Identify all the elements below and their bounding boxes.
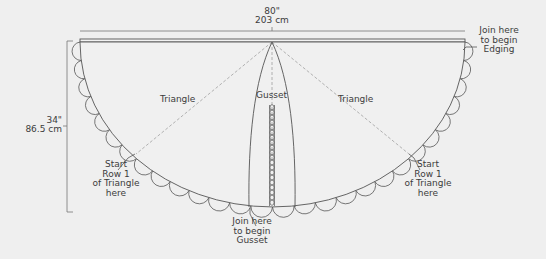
callout-start-row1-right: Start Row 1 of Triangle here (400, 160, 456, 198)
gusset-label: Gusset (256, 91, 287, 101)
callout-join-gusset: Join here to begin Gusset (226, 217, 278, 246)
triangle-right-label: Triangle (338, 95, 373, 105)
width-dimension-line (80, 27, 465, 31)
callout-start-row1-left: Start Row 1 of Triangle here (88, 160, 144, 198)
height-dimension-line (63, 41, 73, 212)
triangle-left-label: Triangle (160, 95, 195, 105)
height-metric-label: 86.5 cm (14, 125, 62, 134)
callout-join-edging: Join here to begin Edging (474, 26, 524, 55)
width-metric-label: 203 cm (250, 16, 294, 25)
